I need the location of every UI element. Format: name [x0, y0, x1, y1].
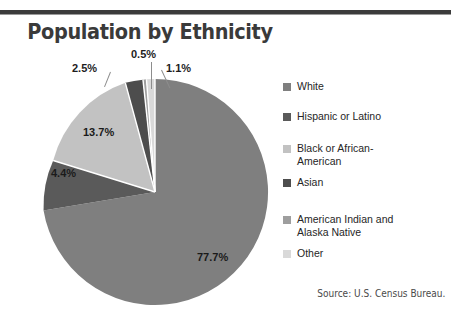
legend-item-asian[interactable]: Asian: [283, 176, 323, 189]
legend-item-hispanic-or-latino[interactable]: Hispanic or Latino: [283, 110, 381, 123]
chart-page: Population by Ethnicity: [0, 0, 451, 316]
legend-item-american-indian-and-alaska-native[interactable]: American Indian and Alaska Native: [283, 213, 393, 239]
legend-item-label: Asian: [297, 176, 323, 189]
legend-item-label: Other: [297, 247, 323, 260]
pie-slices: [43, 79, 268, 305]
legend-item-white[interactable]: White: [283, 80, 324, 93]
legend-swatch-icon: [283, 216, 291, 224]
legend-swatch-icon: [283, 83, 291, 91]
leader-line-american-indian: [151, 62, 152, 89]
page-title: Population by Ethnicity: [12, 20, 288, 44]
legend-swatch-icon: [283, 113, 291, 121]
slice-label-hispanic-or-latino: 4.4%: [51, 167, 76, 179]
top-divider-shadow: [0, 14, 451, 15]
legend-item-black-or-african-american[interactable]: Black or African- American: [283, 142, 373, 168]
legend-item-other[interactable]: Other: [283, 247, 323, 260]
pie-chart: [40, 78, 272, 316]
slice-label-black-or-african-american: 13.7%: [83, 126, 114, 138]
legend-item-label: Black or African- American: [297, 142, 373, 168]
legend-swatch-icon: [283, 145, 291, 153]
legend-item-label: American Indian and Alaska Native: [297, 213, 393, 239]
legend-item-label: Hispanic or Latino: [297, 110, 381, 123]
slice-label-asian: 2.5%: [72, 62, 97, 74]
slice-label-white: 77.7%: [197, 251, 228, 263]
legend-swatch-icon: [283, 250, 291, 258]
slice-label-other: 1.1%: [166, 62, 191, 74]
legend-swatch-icon: [283, 179, 291, 187]
legend-item-label: White: [297, 80, 324, 93]
pie-chart-svg: [40, 78, 272, 316]
slice-label-american-indian: 0.5%: [131, 48, 156, 60]
source-note: Source: U.S. Census Bureau.: [317, 288, 445, 299]
